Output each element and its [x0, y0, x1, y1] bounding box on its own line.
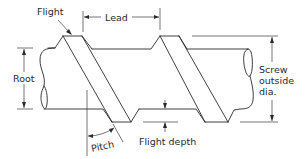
flight-1-right-shoulder [82, 36, 92, 49]
od-label-line2: outside [259, 75, 294, 86]
root-top-left-shoulder [48, 36, 63, 48]
pitch-arrowhead-left [88, 134, 93, 138]
lead-arrowhead-left [84, 15, 89, 19]
pitch-flight-extension [113, 124, 123, 142]
flight-depth-label: Flight depth [139, 136, 196, 147]
root-top-middle [92, 36, 160, 49]
pitch-annotation: Pitch [87, 90, 123, 156]
pitch-arrowhead-right [109, 128, 114, 133]
flight-annotation: Flight [37, 6, 72, 35]
flight-label: Flight [37, 6, 64, 17]
flight-depth-arrowhead-bottom [163, 122, 167, 128]
od-arrowhead-top [270, 37, 274, 43]
lead-label: Lead [105, 12, 128, 23]
right-break-line [228, 49, 253, 122]
flight-depth-arrowhead-top [163, 103, 167, 109]
flight-1-bottom [112, 109, 139, 122]
od-label-line1: Screw [259, 64, 288, 75]
root-arrowhead-bottom [22, 102, 26, 108]
screw-geometry-diagram: Flight Lead Root Screw outside dia. [0, 0, 306, 159]
left-break-line [40, 48, 55, 109]
od-label-line3: dia. [259, 86, 277, 97]
root-bottom-middle [139, 109, 205, 122]
root-arrowhead-top [22, 49, 26, 55]
root-bottom-left [44, 109, 112, 122]
pitch-label: Pitch [90, 138, 115, 154]
lead-arrowhead-right [154, 15, 159, 19]
od-arrowhead-bottom [270, 115, 274, 121]
flight-2-right-shoulder [179, 36, 187, 49]
screw-body [40, 36, 253, 122]
root-label: Root [13, 73, 35, 84]
flight-depth-dimension: Flight depth [139, 100, 196, 147]
root-dimension: Root [13, 48, 35, 109]
lead-dimension: Lead [83, 8, 160, 32]
